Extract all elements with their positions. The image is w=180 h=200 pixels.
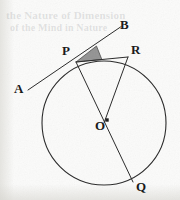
paper-grain-overlay [0, 0, 180, 200]
figure-canvas [0, 0, 180, 200]
geometry-figure: the Nature of Dimension of the Mind in N… [0, 0, 180, 200]
